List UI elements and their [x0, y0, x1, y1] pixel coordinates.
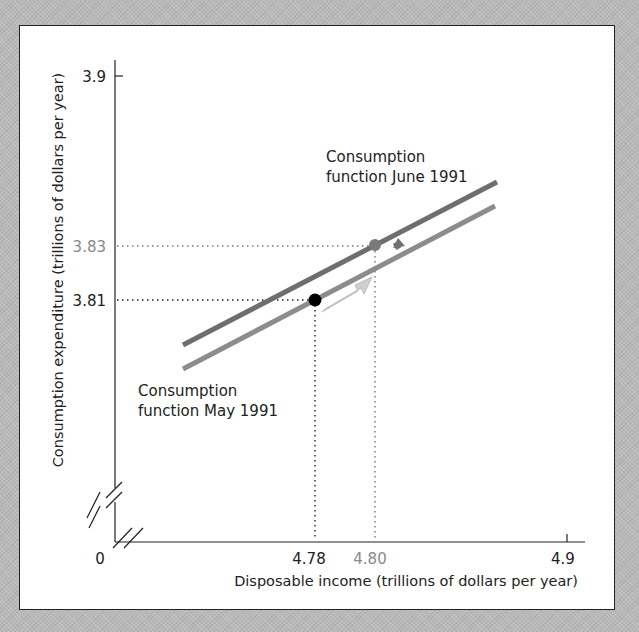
origin-label: 0	[95, 550, 105, 568]
consumption-function-may-1991-line	[183, 206, 495, 369]
june-1991-label-line2: function June 1991	[326, 168, 468, 186]
may-1991-point	[309, 294, 322, 307]
y-axis-break-slashes	[106, 482, 122, 508]
x-axis-title: Disposable income (trillions of dollars …	[234, 573, 578, 589]
consumption-function-june-1991-line	[183, 182, 497, 345]
y-tick-label-3-9: 3.9	[82, 68, 106, 86]
consumption-function-chart: 3.9 3.83 3.81 0 4.78 4.80 4.9 Disposable…	[0, 0, 639, 632]
may-1991-label-line2: function May 1991	[138, 402, 278, 420]
x-axis-break-icon	[113, 528, 143, 548]
y-axis-title: Consumption expenditure (trillions of do…	[50, 73, 66, 468]
x-tick-label-4-80: 4.80	[353, 550, 386, 568]
may-1991-label-line1: Consumption	[138, 382, 237, 400]
shift-up-arrow-icon	[393, 238, 405, 250]
june-1991-label-line1: Consumption	[326, 148, 425, 166]
x-tick-label-4-9: 4.9	[551, 550, 575, 568]
y-tick-label-3-81: 3.81	[73, 292, 106, 310]
june-1991-point	[369, 239, 381, 251]
y-tick-label-3-83: 3.83	[73, 238, 106, 256]
x-tick-label-4-78: 4.78	[292, 550, 325, 568]
